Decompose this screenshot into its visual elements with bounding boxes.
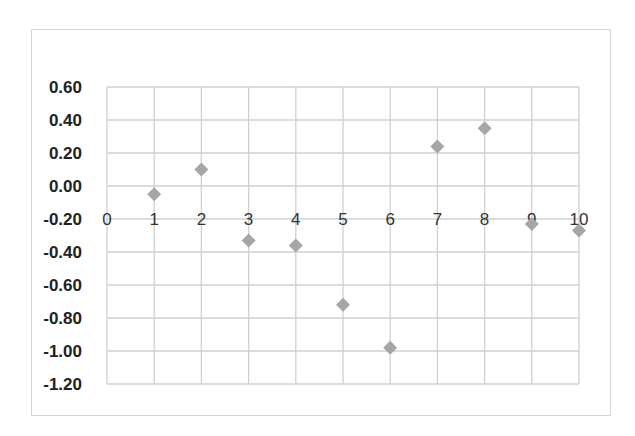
- x-tick-label: 1: [149, 210, 158, 229]
- y-tick-label: -0.20: [43, 210, 82, 229]
- y-tick-label: -0.80: [43, 309, 82, 328]
- diamond-marker: [242, 233, 256, 247]
- diamond-marker: [478, 121, 492, 135]
- diamond-marker: [289, 238, 303, 252]
- y-tick-label: -1.00: [43, 342, 82, 361]
- x-tick-label: 4: [291, 210, 300, 229]
- diamond-marker: [383, 341, 397, 355]
- y-tick-label: -0.40: [43, 243, 82, 262]
- diamond-marker: [194, 163, 208, 177]
- y-tick-label: -0.60: [43, 276, 82, 295]
- x-tick-label: 5: [338, 210, 347, 229]
- x-tick-label: 8: [480, 210, 489, 229]
- x-tick-label: 0: [102, 210, 111, 229]
- gridlines: [107, 87, 579, 384]
- y-tick-label: 0.00: [49, 177, 82, 196]
- x-tick-label: 6: [385, 210, 394, 229]
- x-tick-label: 2: [197, 210, 206, 229]
- y-tick-label: 0.20: [49, 144, 82, 163]
- x-tick-label: 7: [433, 210, 442, 229]
- x-tick-label: 3: [244, 210, 253, 229]
- y-tick-label: 0.40: [49, 111, 82, 130]
- diamond-marker: [147, 187, 161, 201]
- y-axis-labels: 0.600.400.200.00-0.20-0.40-0.60-0.80-1.0…: [43, 78, 82, 394]
- y-tick-label: 0.60: [49, 78, 82, 97]
- y-tick-label: -1.20: [43, 375, 82, 394]
- diamond-marker: [336, 298, 350, 312]
- diamond-marker: [430, 139, 444, 153]
- scatter-chart: 0.600.400.200.00-0.20-0.40-0.60-0.80-1.0…: [0, 0, 635, 436]
- data-points: [147, 121, 586, 354]
